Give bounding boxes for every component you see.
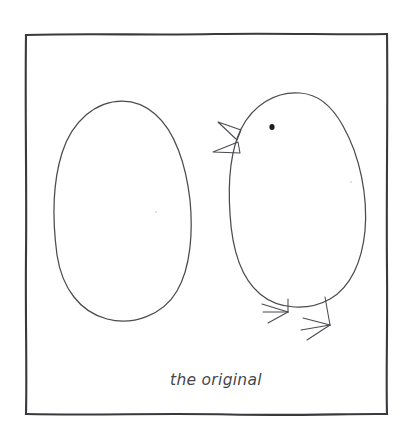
sketch-canvas: the original [0, 0, 412, 443]
frame-right-line [387, 34, 388, 414]
caption-label: the original [170, 371, 262, 389]
sketch-page: the original [0, 0, 412, 443]
paper-speck-right [350, 181, 352, 183]
frame-left-line [26, 35, 27, 414]
frame-bottom-line [26, 414, 387, 415]
frame-top-line [26, 34, 387, 35]
paper-speck [155, 211, 157, 213]
chick-eye [269, 124, 274, 130]
